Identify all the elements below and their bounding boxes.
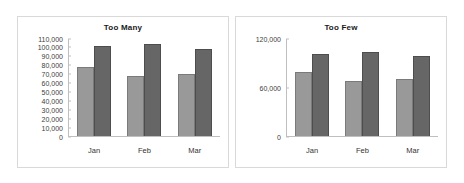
y-tick-label: 60,000	[260, 84, 286, 91]
x-axis-line	[286, 136, 438, 137]
bar	[345, 81, 362, 135]
x-tick-label: Jan	[74, 146, 114, 155]
bar	[295, 72, 312, 135]
bar	[195, 49, 212, 136]
bar	[178, 74, 195, 136]
chart-panel-too-many: Too Many 010,00020,00030,00040,00050,000…	[17, 16, 229, 168]
x-axis-line	[68, 136, 220, 137]
bar-group-container-too-many	[69, 39, 220, 136]
bar	[94, 46, 111, 135]
y-tick-label: 20,000	[42, 115, 68, 122]
y-tick-label: 0	[59, 133, 68, 140]
bar	[77, 67, 94, 136]
y-tick-mark	[68, 136, 71, 137]
y-tick-label: 40,000	[42, 97, 68, 104]
x-tick-label: Mar	[393, 146, 433, 155]
x-tick-label: Feb	[342, 146, 382, 155]
bar	[396, 79, 413, 136]
x-axis-labels-too-many: JanFebMar	[69, 146, 220, 155]
bar	[312, 54, 329, 136]
bar-group	[295, 39, 329, 136]
y-tick-label: 120,000	[256, 35, 286, 42]
y-tick-mark	[286, 136, 289, 137]
y-tick-label: 30,000	[42, 106, 68, 113]
bar	[127, 76, 144, 135]
bar	[144, 44, 161, 135]
bar-group	[178, 39, 212, 136]
plot-area-too-many: 010,00020,00030,00040,00050,00060,00070,…	[68, 39, 220, 137]
bar-group	[77, 39, 111, 136]
y-tick-label: 90,000	[42, 53, 68, 60]
chart-title-too-few: Too Few	[236, 23, 446, 32]
bar	[362, 52, 379, 136]
y-tick-label: 80,000	[42, 62, 68, 69]
chart-panel-too-few: Too Few 060,000120,000 JanFebMar	[235, 16, 447, 168]
y-tick-label: 70,000	[42, 71, 68, 78]
y-tick-label: 100,000	[38, 44, 68, 51]
bar-group	[127, 39, 161, 136]
chart-title-too-many: Too Many	[18, 23, 228, 32]
x-tick-label: Feb	[124, 146, 164, 155]
bar	[413, 56, 430, 136]
x-tick-label: Jan	[292, 146, 332, 155]
y-tick-label: 10,000	[42, 124, 68, 131]
x-tick-label: Mar	[175, 146, 215, 155]
chart-figure: Too Many 010,00020,00030,00040,00050,000…	[0, 0, 464, 183]
x-axis-labels-too-few: JanFebMar	[287, 146, 438, 155]
bar-group	[396, 39, 430, 136]
y-tick-label: 110,000	[38, 35, 68, 42]
bar-group	[345, 39, 379, 136]
bar-group-container-too-few	[287, 39, 438, 136]
y-tick-label: 50,000	[42, 88, 68, 95]
y-tick-label: 60,000	[42, 80, 68, 87]
plot-area-too-few: 060,000120,000	[286, 39, 438, 137]
y-tick-label: 0	[277, 133, 286, 140]
